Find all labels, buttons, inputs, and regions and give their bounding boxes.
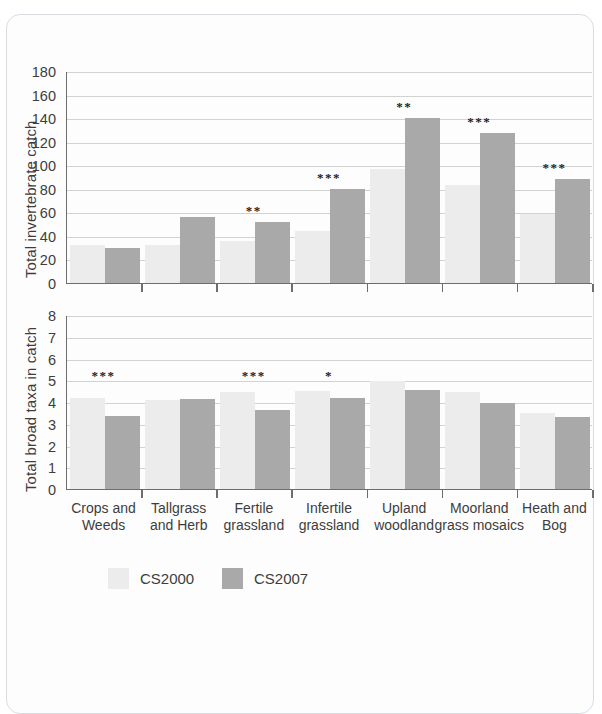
legend-label: CS2000 [140, 570, 194, 587]
y-axis-tick-label: 3 [16, 417, 56, 433]
bar-cs2000 [520, 413, 555, 489]
y-axis-tick-label: 8 [16, 308, 56, 324]
grid-line [67, 338, 592, 339]
bar-cs2007 [555, 417, 590, 489]
grid-line [67, 360, 592, 361]
y-axis-tick-label: 2 [16, 439, 56, 455]
bar-cs2007 [480, 403, 515, 489]
bar-cs2000 [445, 392, 480, 489]
bar-cs2000 [220, 392, 255, 489]
x-axis-tick-mark [517, 490, 519, 498]
y-axis-tick-label: 4 [16, 395, 56, 411]
grid-line [67, 316, 592, 317]
chart-legend: CS2000CS2007 [0, 568, 602, 598]
x-axis-category-labels: Crops and WeedsTallgrass and HerbFertile… [0, 500, 602, 548]
significance-marker: *** [92, 368, 116, 384]
x-axis-category-label: Heath and Bog [506, 500, 602, 534]
legend-label: CS2007 [254, 570, 308, 587]
plot-area-bottom [66, 316, 592, 490]
bar-cs2007 [255, 410, 290, 489]
significance-marker: * [325, 368, 333, 384]
bar-cs2007 [330, 398, 365, 489]
bar-cs2007 [405, 390, 440, 489]
y-axis-tick-label: 0 [16, 482, 56, 498]
x-axis-tick-mark [367, 490, 369, 498]
x-axis-tick-mark [141, 490, 143, 498]
bar-cs2000 [70, 398, 105, 489]
x-axis-tick-mark [592, 490, 594, 498]
bar-cs2007 [105, 416, 140, 489]
y-axis-tick-label: 5 [16, 373, 56, 389]
bar-cs2007 [180, 399, 215, 489]
y-axis-tick-label: 7 [16, 330, 56, 346]
y-axis-tick-label: 1 [16, 460, 56, 476]
x-axis-tick-mark [291, 490, 293, 498]
legend-swatch-cs2000 [108, 568, 129, 589]
bar-cs2000 [370, 381, 405, 489]
bar-cs2000 [295, 391, 330, 489]
x-axis-tick-mark [216, 490, 218, 498]
bar-cs2000 [145, 400, 180, 489]
legend-swatch-cs2007 [222, 568, 243, 589]
legend-item-cs2007: CS2007 [222, 568, 308, 589]
x-axis-tick-mark [442, 490, 444, 498]
legend-item-cs2000: CS2000 [108, 568, 194, 589]
y-axis-tick-label: 6 [16, 352, 56, 368]
significance-marker: *** [242, 368, 266, 384]
